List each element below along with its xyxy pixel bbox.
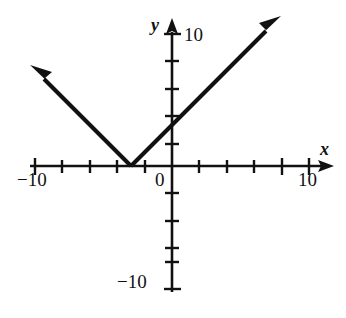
y-axis-arrow-icon xyxy=(166,18,178,34)
absolute-value-curve xyxy=(30,16,281,166)
x-axis-label: x xyxy=(320,140,329,158)
curve-right-branch xyxy=(131,31,266,166)
y-axis-max-tick-label: 10 xyxy=(184,25,203,44)
y-axis-min-tick-label: −10 xyxy=(117,272,147,291)
x-axis-min-tick-label: −10 xyxy=(17,170,47,189)
graph-figure: y 10 −10 0 −10 10 x xyxy=(0,0,346,318)
x-axis-group xyxy=(30,158,334,175)
curve-left-branch xyxy=(44,79,131,166)
y-axis-group xyxy=(164,18,181,292)
origin-label: 0 xyxy=(155,170,165,189)
coordinate-plane-svg xyxy=(0,0,346,318)
y-axis-label: y xyxy=(151,16,159,34)
x-axis-max-tick-label: 10 xyxy=(298,170,317,189)
